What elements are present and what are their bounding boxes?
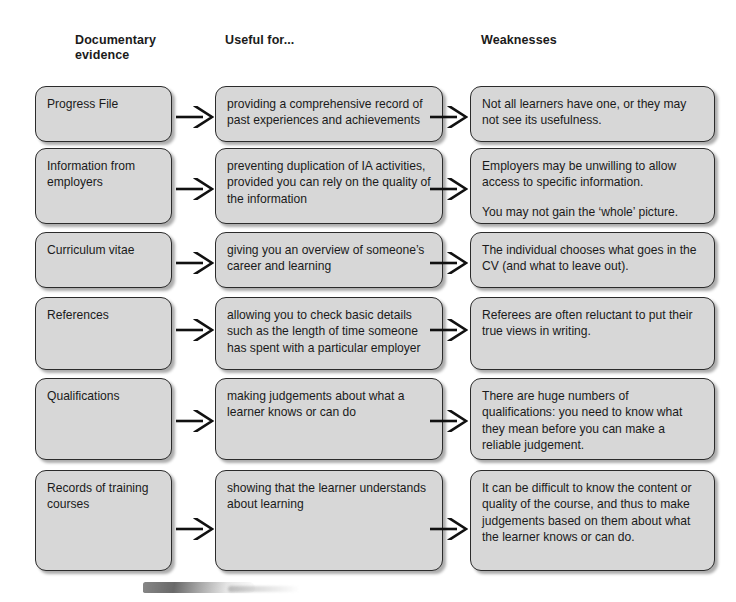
- column-header-line-1: Useful for...: [225, 33, 425, 48]
- useful-for-box-1[interactable]: providing a comprehensive record of past…: [215, 86, 443, 142]
- column-header-line-1: Documentary: [75, 33, 225, 48]
- box-paragraph: Information from employers: [47, 158, 160, 191]
- diagram-canvas: Documentary evidence Useful for... Weakn…: [0, 0, 736, 602]
- weaknesses-box-2[interactable]: Employers may be unwilling to allow acce…: [470, 148, 715, 224]
- weaknesses-box-4[interactable]: Referees are often reluctant to put thei…: [470, 297, 715, 370]
- box-paragraph: preventing duplication of IA activities,…: [227, 158, 431, 207]
- box-paragraph: allowing you to check basic details such…: [227, 307, 431, 356]
- box-paragraph: showing that the learner understands abo…: [227, 480, 431, 513]
- useful-for-box-5[interactable]: making judgements about what a learner k…: [215, 378, 443, 460]
- box-paragraph: providing a comprehensive record of past…: [227, 96, 431, 129]
- box-paragraph: Progress File: [47, 96, 160, 112]
- flow-arrow-icon: [176, 410, 214, 432]
- weaknesses-box-3[interactable]: The individual chooses what goes in the …: [470, 232, 715, 288]
- column-header-line-1: Weaknesses: [481, 33, 681, 48]
- evidence-box-2[interactable]: Information from employers: [35, 148, 172, 224]
- box-paragraph: It can be difficult to know the content …: [482, 480, 703, 546]
- column-header-line-2: evidence: [75, 48, 225, 63]
- box-paragraph: The individual chooses what goes in the …: [482, 242, 703, 275]
- evidence-box-6[interactable]: Records of training courses: [35, 470, 172, 571]
- useful-for-box-6[interactable]: showing that the learner understands abo…: [215, 470, 443, 571]
- box-paragraph: You may not gain the ‘whole’ picture.: [482, 204, 703, 220]
- evidence-box-3[interactable]: Curriculum vitae: [35, 232, 172, 288]
- box-paragraph: giving you an overview of someone’s care…: [227, 242, 431, 275]
- flow-arrow-icon: [176, 319, 214, 341]
- column-header-useful-for: Useful for...: [225, 33, 425, 48]
- box-paragraph: Qualifications: [47, 388, 160, 404]
- box-paragraph: Referees are often reluctant to put thei…: [482, 307, 703, 340]
- flow-arrow-icon: [176, 518, 214, 540]
- box-paragraph: Records of training courses: [47, 480, 160, 513]
- weaknesses-box-6[interactable]: It can be difficult to know the content …: [470, 470, 715, 571]
- column-header-weaknesses: Weaknesses: [481, 33, 681, 48]
- evidence-box-1[interactable]: Progress File: [35, 86, 172, 142]
- flow-arrow-icon: [176, 252, 214, 274]
- evidence-box-5[interactable]: Qualifications: [35, 378, 172, 460]
- flow-arrow-icon: [176, 106, 214, 128]
- column-header-documentary-evidence: Documentary evidence: [75, 33, 225, 63]
- box-paragraph: References: [47, 307, 160, 323]
- box-paragraph: making judgements about what a learner k…: [227, 388, 431, 421]
- useful-for-box-2[interactable]: preventing duplication of IA activities,…: [215, 148, 443, 224]
- weaknesses-box-5[interactable]: There are huge numbers of qualifications…: [470, 378, 715, 460]
- box-paragraph: Not all learners have one, or they may n…: [482, 96, 703, 129]
- weaknesses-box-1[interactable]: Not all learners have one, or they may n…: [470, 86, 715, 142]
- useful-for-box-3[interactable]: giving you an overview of someone’s care…: [215, 232, 443, 288]
- flow-arrow-icon: [176, 178, 214, 200]
- useful-for-box-4[interactable]: allowing you to check basic details such…: [215, 297, 443, 370]
- box-paragraph: There are huge numbers of qualifications…: [482, 388, 703, 454]
- box-paragraph: Curriculum vitae: [47, 242, 160, 258]
- scan-smudge-artifact-secondary: [228, 586, 298, 592]
- box-paragraph: Employers may be unwilling to allow acce…: [482, 158, 703, 191]
- evidence-box-4[interactable]: References: [35, 297, 172, 370]
